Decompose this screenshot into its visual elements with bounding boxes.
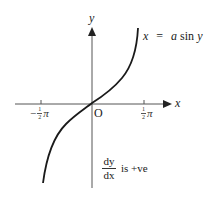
gradient-positive-text: is +ve bbox=[121, 163, 148, 174]
eq-function: sin bbox=[180, 29, 194, 43]
origin-label: O bbox=[94, 107, 103, 119]
eq-lhs: x bbox=[143, 29, 148, 43]
fraction-denominator: 2 bbox=[38, 114, 41, 120]
eq-variable: y bbox=[197, 29, 202, 43]
derivative-numerator: dy bbox=[104, 156, 115, 167]
y-axis-label: y bbox=[89, 12, 94, 24]
eq-coefficient: a bbox=[171, 29, 177, 43]
x-axis-label: x bbox=[175, 97, 180, 109]
curve-x-equals-a-sin-y bbox=[43, 28, 138, 183]
half-fraction: 1 2 bbox=[141, 106, 146, 120]
derivative-denominator: dx bbox=[104, 170, 115, 181]
fraction-numerator: 1 bbox=[38, 106, 41, 112]
y-axis-arrow-icon bbox=[88, 27, 96, 36]
tick-sign: − bbox=[30, 108, 36, 119]
fraction-denominator: 2 bbox=[142, 114, 145, 120]
curve-equation-label: x = a sin y bbox=[143, 30, 202, 42]
tick-label-minus-half-pi: − 1 2 π bbox=[30, 106, 49, 120]
half-fraction: 1 2 bbox=[37, 106, 42, 120]
pi-symbol: π bbox=[147, 108, 153, 119]
derivative-fraction: dy dx bbox=[102, 156, 116, 181]
graph-x-equals-a-sin-y: y x O − 1 2 π 1 2 π x = a sin y dy dx is… bbox=[0, 0, 209, 198]
pi-symbol: π bbox=[43, 108, 49, 119]
x-axis-arrow-icon bbox=[163, 100, 172, 108]
eq-sign: = bbox=[156, 29, 163, 43]
fraction-numerator: 1 bbox=[142, 106, 145, 112]
tick-label-plus-half-pi: 1 2 π bbox=[140, 106, 153, 120]
